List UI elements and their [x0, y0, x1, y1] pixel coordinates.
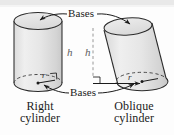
cylinder-figure: Bases Bases h h r r Right cylinder Obliq… — [0, 0, 174, 135]
label-height-oblique-cylinder: h — [85, 47, 91, 58]
label-bases-bottom: Bases — [70, 87, 96, 98]
caption-oblique-cylinder: Oblique cylinder — [98, 100, 170, 124]
label-bases-top: Bases — [68, 8, 94, 19]
label-radius-right-cylinder: r — [42, 71, 46, 80]
oblique-cylinder-right-angle-mark — [93, 77, 100, 84]
label-radius-oblique-cylinder: r — [128, 73, 132, 82]
right-cylinder-shape — [14, 13, 62, 92]
label-height-right-cylinder: h — [67, 47, 73, 58]
right-cylinder-body — [14, 21, 62, 92]
scan-band — [0, 0, 174, 5]
caption-right-cylinder-line2: cylinder — [6, 112, 74, 124]
right-cylinder-top-base — [14, 13, 62, 30]
caption-right-cylinder: Right cylinder — [6, 100, 74, 124]
caption-oblique-cylinder-line2: cylinder — [98, 112, 170, 124]
